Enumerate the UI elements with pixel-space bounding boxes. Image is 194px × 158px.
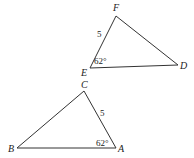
angle-label-e: 62° <box>94 56 107 66</box>
vertex-label-e: E <box>80 67 87 78</box>
vertex-label-c: C <box>81 79 88 90</box>
vertex-label-a: A <box>117 143 125 154</box>
vertex-label-b: B <box>8 143 14 154</box>
diagram-canvas: F E D 5 62° C B A 5 62° <box>0 0 194 158</box>
side-label-ef: 5 <box>97 29 102 39</box>
vertex-label-f: F <box>112 2 120 13</box>
side-label-ca: 5 <box>100 108 105 118</box>
triangle-def: F E D 5 62° <box>80 2 188 78</box>
angle-label-a: 62° <box>96 138 109 148</box>
triangle-abc: C B A 5 62° <box>8 79 125 154</box>
vertex-label-d: D <box>179 60 188 71</box>
